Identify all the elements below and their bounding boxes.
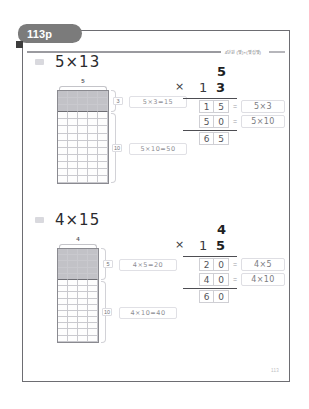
model-side-label-bottom-2: 10 xyxy=(102,308,112,316)
side-equation-1-1-text: 5×3=15 xyxy=(143,98,173,106)
unit-cell xyxy=(88,141,98,148)
unit-cell xyxy=(58,169,68,176)
equals-dash-2-1: = xyxy=(233,261,237,268)
partial-product-1-1: 1 5 xyxy=(199,100,229,113)
unit-cell xyxy=(78,162,88,169)
unit-cell xyxy=(98,169,108,176)
unit-cell xyxy=(58,126,68,133)
unit-cell xyxy=(98,91,108,98)
partial2-tens-1[interactable]: 5 xyxy=(199,115,214,128)
unit-cell xyxy=(88,134,98,141)
area-model-2: 4 xyxy=(57,237,99,343)
model-top-brace-2: 4 xyxy=(57,237,99,248)
unit-cell xyxy=(68,162,78,169)
operator-1: × xyxy=(175,80,184,93)
unit-cell xyxy=(58,148,68,155)
unit-cell xyxy=(68,119,78,126)
problem-marker-1 xyxy=(35,59,44,65)
unit-cell xyxy=(58,162,68,169)
side-equation-2-2: 4×10=40 xyxy=(119,307,177,319)
total-ones-2[interactable]: 0 xyxy=(214,290,229,303)
unit-cell xyxy=(58,141,68,148)
unit-grid-1 xyxy=(57,90,109,184)
unit-cell xyxy=(58,105,68,112)
unit-cell xyxy=(98,176,108,183)
unit-cell xyxy=(68,155,78,162)
unit-cell xyxy=(58,98,68,105)
side-equation-2-1-text: 4×5=20 xyxy=(133,261,163,269)
unit-cell xyxy=(58,119,68,126)
total-ones-1[interactable]: 5 xyxy=(214,132,229,145)
partial1-note-1: 5×3 xyxy=(241,100,285,113)
vertical-algorithm-2: 4 × 1 5 2 0 = 4×5 4 0 = xyxy=(175,223,285,240)
unit-cell xyxy=(98,148,108,155)
unit-cell xyxy=(78,134,88,141)
unit-cell xyxy=(88,162,98,169)
operator-2: × xyxy=(175,238,184,251)
unit-cell xyxy=(78,148,88,155)
algorithm-rule-top-1 xyxy=(183,98,237,99)
unit-cell xyxy=(68,176,78,183)
partial2-note-1: 5×10 xyxy=(241,115,285,128)
footer-page-number: 113 xyxy=(271,368,279,373)
partial-product-2-2: 4 0 xyxy=(199,273,229,286)
partial-product-2-1: 2 0 xyxy=(199,258,229,271)
unit-cell xyxy=(98,105,108,112)
problem-title-2: 4×15 xyxy=(55,211,100,229)
unit-cell xyxy=(68,98,78,105)
unit-cell xyxy=(88,148,98,155)
partial2-ones-2[interactable]: 0 xyxy=(214,273,229,286)
vertical-algorithm-1: 5 × 1 3 1 5 = 5×3 5 0 = xyxy=(175,65,285,82)
partial1-ones-2[interactable]: 0 xyxy=(214,258,229,271)
brace-top-value-1: 3 xyxy=(116,98,119,104)
badge-notch-decoration xyxy=(16,41,23,48)
unit-cell xyxy=(78,176,88,183)
partial1-tens-1[interactable]: 1 xyxy=(199,100,214,113)
partial2-tens-2[interactable]: 4 xyxy=(199,273,214,286)
unit-cell xyxy=(88,176,98,183)
model-side-label-top-2: 5 xyxy=(103,260,113,268)
unit-cell xyxy=(88,155,98,162)
partial1-note-2: 4×5 xyxy=(241,258,285,271)
total-tens-2[interactable]: 6 xyxy=(199,290,214,303)
unit-cell xyxy=(68,134,78,141)
unit-cell xyxy=(58,134,68,141)
unit-cell xyxy=(78,119,88,126)
unit-cell xyxy=(78,105,88,112)
partial2-ones-1[interactable]: 0 xyxy=(214,115,229,128)
partial1-tens-2[interactable]: 2 xyxy=(199,258,214,271)
unit-cell xyxy=(78,155,88,162)
unit-cell xyxy=(58,176,68,183)
multiplier-ones-2: 5 xyxy=(216,238,225,253)
unit-cell xyxy=(98,112,108,119)
unit-cell xyxy=(88,126,98,133)
vertical-operands-2: 4 × 1 5 xyxy=(175,223,285,240)
partial1-ones-1[interactable]: 5 xyxy=(214,100,229,113)
partial1-note-text-1: 5×3 xyxy=(254,102,272,111)
unit-cell xyxy=(98,155,108,162)
equals-dash-1-1: = xyxy=(233,103,237,110)
brace-bottom-value-1: 10 xyxy=(114,145,120,151)
problem-title-1: 5×13 xyxy=(55,53,100,71)
multiplicand-1: 5 xyxy=(217,64,226,79)
partial2-note-2: 4×10 xyxy=(241,273,285,286)
unit-cell xyxy=(98,119,108,126)
problem-marker-2 xyxy=(35,217,44,223)
total-tens-1[interactable]: 6 xyxy=(199,132,214,145)
model-top-label-2: 4 xyxy=(76,236,79,242)
side-equation-1-1: 5×3=15 xyxy=(129,96,187,108)
unit-cell xyxy=(68,148,78,155)
side-equation-2-2-text: 4×10=40 xyxy=(130,309,165,317)
unit-cell xyxy=(98,98,108,105)
model-top-brace-line-1 xyxy=(59,86,107,90)
unit-cell xyxy=(58,112,68,119)
equals-dash-1-2: = xyxy=(233,118,237,125)
unit-cell xyxy=(68,112,78,119)
side-equation-1-2: 5×10=50 xyxy=(129,143,187,155)
partial2-note-text-1: 5×10 xyxy=(251,117,275,126)
unit-cell xyxy=(68,105,78,112)
model-top-brace-line-2 xyxy=(59,244,97,248)
algorithm-rule-bottom-1 xyxy=(183,130,237,131)
model-side-label-top-1: 3 xyxy=(113,97,123,105)
area-model-1: 5 xyxy=(57,79,109,184)
